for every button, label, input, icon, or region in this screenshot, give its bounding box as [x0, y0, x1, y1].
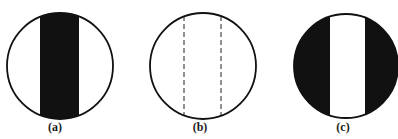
- panel-a-diagram: [7, 0, 113, 139]
- panel-b-diagram: [150, 0, 256, 139]
- three-panel-figure: (a) (b) (c): [0, 0, 398, 139]
- figure-canvas: [0, 0, 398, 139]
- panel-c-label: (c): [336, 120, 349, 135]
- panel-c-diagram: [294, 0, 398, 139]
- panel-b-label: (b): [193, 120, 208, 135]
- panel-a-label: (a): [48, 120, 62, 135]
